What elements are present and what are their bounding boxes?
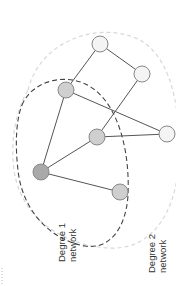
- degree2-node: [159, 126, 175, 142]
- degree1-outline: [16, 79, 128, 246]
- degree2-label: Degree 2 network: [146, 234, 168, 273]
- degree2-node: [134, 66, 150, 82]
- degree1-label: Degree 1 network: [56, 223, 78, 262]
- edge-n5-n4: [97, 134, 167, 137]
- edge-n5-n6: [41, 137, 97, 172]
- degree2-label-line2: network: [157, 234, 168, 273]
- degree1-node: [58, 82, 74, 98]
- edges: [41, 44, 167, 192]
- degree2-node: [92, 36, 108, 52]
- degree1-node: [89, 129, 105, 145]
- degree1-node: [112, 184, 128, 200]
- degree1-label-line1: Degree 1: [56, 223, 67, 262]
- edge-n3-n4: [66, 90, 167, 134]
- degree2-label-line1: Degree 2: [146, 234, 157, 273]
- degree1-label-line2: network: [67, 223, 78, 262]
- edge-n6-n7: [41, 172, 120, 192]
- edge-n3-n6: [41, 90, 66, 172]
- ego-node: [33, 164, 49, 180]
- edge-n1-n3: [66, 44, 100, 90]
